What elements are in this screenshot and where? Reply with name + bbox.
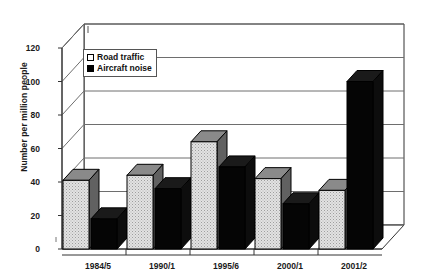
chart-legend: Road traffic Aircraft noise [83,49,157,77]
bar-chart: Number per million people 02040608010012… [0,0,422,279]
plot-area [0,0,422,279]
legend-label-aircraft-noise: Aircraft noise [97,63,152,74]
bar-air-2000/1 [283,193,319,249]
legend-label-road-traffic: Road traffic [97,52,144,63]
open-square-icon [87,54,94,61]
bar-air-1984/5 [91,208,127,249]
bar-air-1995/6 [219,156,255,249]
bar-air-2001/2 [347,71,383,250]
bar-air-1990/1 [155,178,191,249]
legend-item-road-traffic: Road traffic [87,52,152,63]
filled-square-icon [87,65,94,72]
legend-item-aircraft-noise: Aircraft noise [87,63,152,74]
